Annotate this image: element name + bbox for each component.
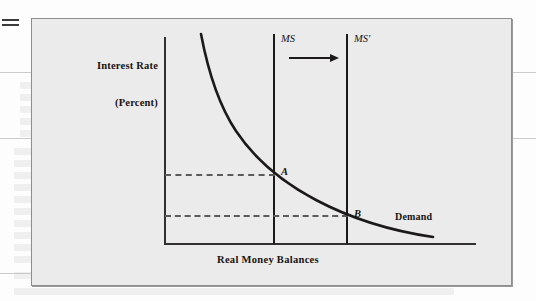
plot-area: Interest Rate (Percent) Real Money Balan… [32,19,511,285]
page-edge-mark-lower [2,24,19,26]
x-axis-label: Real Money Balances [217,254,319,266]
money-supply-label-ms: MS [281,33,295,45]
y-axis-label: Interest Rate (Percent) [78,35,158,134]
figure-frame: Interest Rate (Percent) Real Money Balan… [31,18,512,286]
demand-curve-label: Demand [395,211,432,223]
scanned-figure-page: Interest Rate (Percent) Real Money Balan… [0,0,536,301]
money-supply-label-ms-prime: MS' [354,33,370,45]
y-axis-label-line1: Interest Rate [78,60,158,72]
page-edge-mark-upper [2,19,19,21]
y-axis-label-line2: (Percent) [78,97,158,109]
point-b-label: B [354,208,361,220]
shift-arrow-icon [289,54,339,62]
point-a-label: A [281,166,288,178]
